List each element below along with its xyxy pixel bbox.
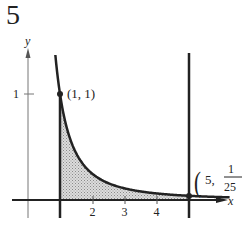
y-axis-label: y	[24, 34, 31, 48]
shaded-region	[60, 94, 188, 200]
left-paren: (	[194, 165, 201, 199]
y-axis-arrow-icon	[26, 48, 31, 58]
y-tick-label-1: 1	[13, 87, 19, 101]
problem-number: 5	[6, 0, 20, 30]
point-label-5-1-25: ( 5, 1 25	[194, 162, 242, 199]
point-label-1-1: (1, 1)	[67, 86, 95, 101]
x-tick-label-2: 2	[90, 205, 96, 219]
x-tick-label-3: 3	[122, 205, 128, 219]
point-5-1-25	[186, 193, 192, 199]
point-label-prefix: 5,	[205, 172, 215, 187]
x-tick-label-4: 4	[154, 205, 160, 219]
fraction-denominator: 25	[224, 180, 236, 194]
area-under-curve-figure: 5 y x 1 2 3 4 (1, 1) ( 5, 1 25	[0, 0, 242, 227]
fraction-numerator: 1	[228, 162, 234, 176]
point-1-1	[57, 91, 63, 97]
